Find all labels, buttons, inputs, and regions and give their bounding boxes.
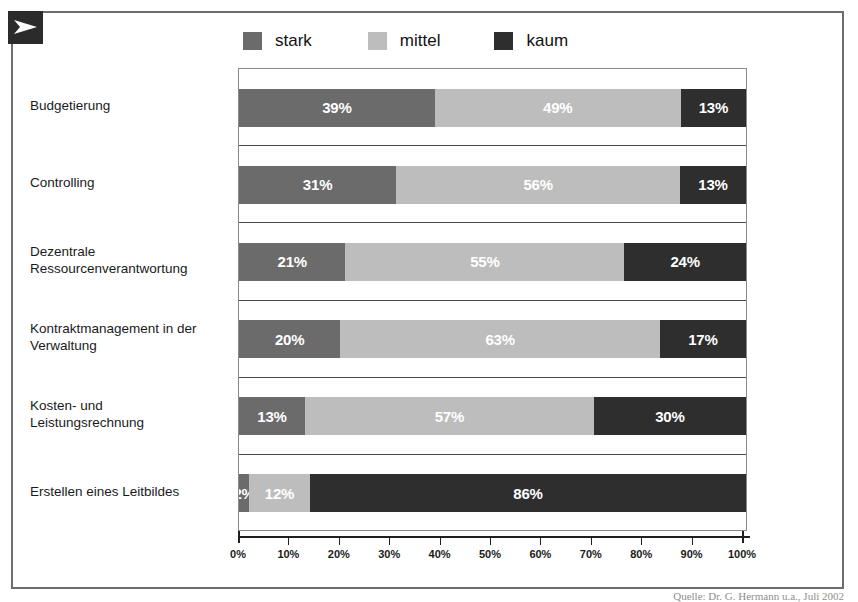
bar-segment-value: 17% — [688, 331, 717, 348]
x-axis-tick — [591, 538, 592, 545]
row-separator — [239, 377, 746, 378]
category-label-line: Kosten- und — [30, 397, 235, 414]
arrow-right-icon — [13, 17, 38, 37]
bar-row: 39%49%13% — [239, 89, 746, 127]
bar-segment-value: 21% — [278, 253, 307, 270]
category-label-line: Dezentrale — [30, 243, 235, 260]
bar-row: 31%56%13% — [239, 166, 746, 204]
x-axis-tick-label: 70% — [580, 548, 602, 560]
x-axis-tick-label: 10% — [277, 548, 299, 560]
bar-segment-stark: 39% — [239, 89, 435, 127]
x-axis-tick-label: 20% — [328, 548, 350, 560]
row-separator — [239, 300, 746, 301]
category-label-line: Leistungsrechnung — [30, 414, 235, 431]
bar-segment-mittel: 49% — [435, 89, 681, 127]
bar-segment-mittel: 57% — [305, 397, 594, 435]
chart-legend: starkmittelkaum — [243, 28, 568, 54]
bar-segment-value: 13% — [698, 176, 727, 193]
source-note: Quelle: Dr. G. Hermann u.a., Juli 2002 — [673, 590, 844, 602]
row-separator — [239, 145, 746, 146]
legend-label-stark: stark — [275, 31, 312, 51]
category-label: Kosten- undLeistungsrechnung — [30, 397, 235, 431]
bar-segment-value: 30% — [655, 408, 684, 425]
legend-entry-kaum: kaum — [494, 31, 568, 51]
x-axis: 0%10%20%30%40%50%60%70%80%90%100% — [238, 536, 750, 576]
bar-segment-value: 55% — [470, 253, 499, 270]
row-separator — [239, 454, 746, 455]
x-axis-tick — [440, 538, 441, 545]
bar-segment-value: 12% — [265, 485, 294, 502]
category-label: Kontraktmanagement in derVerwaltung — [30, 320, 235, 354]
bar-segment-stark: 21% — [239, 243, 345, 281]
category-label-column: BudgetierungControllingDezentraleRessour… — [30, 68, 235, 531]
bar-segment-stark: 31% — [239, 166, 396, 204]
bar-segment-value: 49% — [543, 99, 572, 116]
row-separator — [239, 222, 746, 223]
x-axis-tick-label: 50% — [479, 548, 501, 560]
bar-segment-kaum: 13% — [680, 166, 746, 204]
bar-row: 13%57%30% — [239, 397, 746, 435]
bar-segment-mittel: 56% — [396, 166, 680, 204]
bar-segment-kaum: 24% — [624, 243, 746, 281]
bar-row: 20%63%17% — [239, 320, 746, 358]
category-label: Erstellen eines Leitbildes — [30, 483, 235, 500]
bar-row: 21%55%24% — [239, 243, 746, 281]
category-label-line: Budgetierung — [30, 97, 235, 114]
bar-segment-value: 63% — [485, 331, 514, 348]
bar-segment-kaum: 86% — [310, 474, 746, 512]
bar-segment-value: 86% — [513, 485, 542, 502]
legend-swatch-stark — [243, 32, 262, 50]
x-axis-tick-label: 30% — [378, 548, 400, 560]
category-label-line: Ressourcenverantwortung — [30, 260, 235, 277]
bar-segment-value: 13% — [257, 408, 286, 425]
x-axis-start-cap — [238, 531, 240, 543]
bar-segment-stark: 2% — [239, 474, 249, 512]
x-axis-tick — [339, 538, 340, 545]
x-axis-tick — [389, 538, 390, 545]
bar-segment-value: 39% — [322, 99, 351, 116]
bar-segment-mittel: 63% — [340, 320, 659, 358]
legend-swatch-kaum — [494, 32, 513, 50]
x-axis-tick-label: 0% — [230, 548, 246, 560]
bar-segment-value: 2% — [239, 485, 249, 502]
bar-segment-mittel: 55% — [345, 243, 624, 281]
bar-segment-kaum: 13% — [681, 89, 746, 127]
x-axis-tick — [288, 538, 289, 545]
bar-segment-value: 56% — [523, 176, 552, 193]
bar-segment-stark: 13% — [239, 397, 305, 435]
bar-segment-value: 24% — [670, 253, 699, 270]
bar-segment-mittel: 12% — [249, 474, 310, 512]
legend-label-kaum: kaum — [526, 31, 568, 51]
x-axis-tick-label: 60% — [529, 548, 551, 560]
bar-segment-value: 57% — [435, 408, 464, 425]
category-label-line: Kontraktmanagement in der — [30, 320, 235, 337]
x-axis-tick — [540, 538, 541, 545]
x-axis-tick — [490, 538, 491, 545]
bar-segment-kaum: 30% — [594, 397, 746, 435]
legend-label-mittel: mittel — [400, 31, 441, 51]
x-axis-tick-label: 40% — [429, 548, 451, 560]
bar-row: 2%12%86% — [239, 474, 746, 512]
x-axis-end-cap — [742, 531, 744, 543]
bar-segment-kaum: 17% — [660, 320, 746, 358]
bar-segment-value: 20% — [275, 331, 304, 348]
plot-area: 39%49%13%31%56%13%21%55%24%20%63%17%13%5… — [238, 68, 747, 531]
category-label: Budgetierung — [30, 97, 235, 114]
x-axis-tick — [641, 538, 642, 545]
category-label: Controlling — [30, 174, 235, 191]
bar-segment-value: 13% — [699, 99, 728, 116]
legend-entry-stark: stark — [243, 31, 312, 51]
x-axis-tick-label: 80% — [630, 548, 652, 560]
x-axis-tick-label: 90% — [681, 548, 703, 560]
category-label-line: Verwaltung — [30, 337, 235, 354]
x-axis-line — [238, 536, 750, 538]
category-label-line: Controlling — [30, 174, 235, 191]
bar-segment-value: 31% — [303, 176, 332, 193]
category-label: DezentraleRessourcenverantwortung — [30, 243, 235, 277]
x-axis-tick — [692, 538, 693, 545]
x-axis-tick-label: 100% — [728, 548, 756, 560]
legend-entry-mittel: mittel — [368, 31, 441, 51]
legend-swatch-mittel — [368, 32, 387, 50]
logo-badge — [8, 11, 43, 44]
